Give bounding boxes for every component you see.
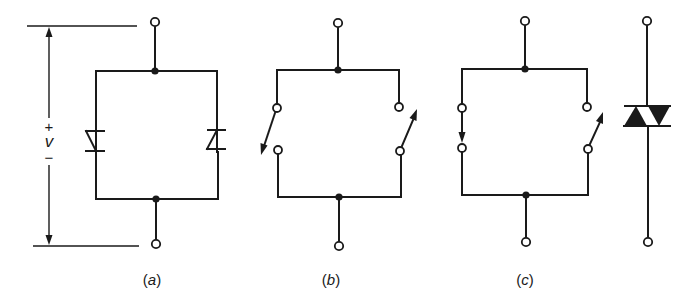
switch-closed-down-icon — [458, 104, 466, 152]
c-bottom-rail — [462, 153, 588, 195]
switch-left-icon — [261, 104, 283, 155]
b-bottom-rail — [278, 155, 401, 197]
caption-a-letter: a — [148, 271, 156, 288]
b-top-terminal — [334, 19, 342, 27]
caption-c: (c) — [516, 272, 534, 287]
triac-icon — [624, 17, 670, 246]
caption-b: (b) — [322, 272, 340, 287]
zener-diode-left-icon — [86, 115, 104, 152]
voltage-arrow-down — [46, 165, 53, 245]
caption-b-letter: b — [327, 271, 335, 288]
c-top-rail — [462, 69, 587, 104]
subfigure-a — [27, 18, 225, 248]
voltage-arrow-up — [46, 27, 53, 118]
c-top-terminal — [521, 17, 529, 25]
a-top-terminal — [151, 18, 159, 26]
circuit-figure — [0, 0, 696, 301]
a-top-node — [151, 67, 158, 74]
b-bottom-terminal — [335, 242, 343, 250]
voltage-minus-sign: − — [45, 150, 54, 165]
a-bottom-terminal — [152, 240, 160, 248]
a-bottom-rail — [96, 152, 218, 199]
subfigure-b — [261, 19, 418, 250]
switch-right-open-icon — [583, 103, 603, 153]
c-top-node — [521, 65, 528, 72]
voltage-symbol: v — [45, 133, 54, 150]
c-bottom-terminal — [522, 238, 530, 246]
caption-a: (a) — [143, 272, 161, 287]
zener-diode-right-icon — [207, 115, 225, 152]
subfigure-c — [458, 17, 670, 246]
switch-right-icon — [395, 103, 417, 155]
a-top-rail — [96, 71, 217, 115]
b-top-rail — [277, 70, 399, 104]
caption-c-letter: c — [521, 271, 529, 288]
b-top-node — [334, 66, 341, 73]
